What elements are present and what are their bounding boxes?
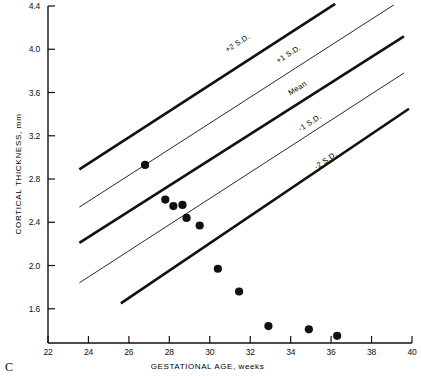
y-tick-label: 3.6 — [8, 88, 40, 98]
data-point — [196, 221, 204, 229]
data-point — [178, 201, 186, 209]
data-point — [264, 322, 272, 330]
axis-lines — [48, 6, 412, 343]
reference-line-2sd — [121, 109, 409, 304]
data-point — [141, 161, 149, 169]
x-axis-title: GESTATIONAL AGE, weeks — [0, 362, 415, 371]
data-point — [182, 214, 190, 222]
data-point — [333, 332, 341, 340]
x-tick-label: 26 — [115, 347, 143, 357]
x-tick-label: 24 — [74, 347, 102, 357]
x-tick-label: 38 — [358, 347, 386, 357]
data-point — [161, 195, 169, 203]
x-tick-label: 22 — [34, 347, 62, 357]
x-tick-marks — [48, 336, 412, 343]
reference-lines — [79, 4, 409, 304]
y-tick-label: 1.6 — [8, 304, 40, 314]
data-point — [169, 202, 177, 210]
y-tick-label: 4.0 — [8, 44, 40, 54]
x-tick-label: 30 — [196, 347, 224, 357]
x-tick-label: 36 — [317, 347, 345, 357]
x-tick-label: 40 — [398, 347, 421, 357]
reference-line-mean — [79, 36, 404, 243]
y-axis-title: CORTICAL THICKNESS, mm — [14, 115, 23, 235]
data-point — [235, 287, 243, 295]
reference-line-1sd — [79, 73, 404, 283]
y-tick-marks — [48, 6, 55, 309]
data-point-markers — [141, 161, 341, 340]
data-point — [305, 325, 313, 333]
data-point — [214, 265, 222, 273]
y-tick-label: 4.4 — [8, 1, 40, 11]
x-tick-label: 34 — [277, 347, 305, 357]
y-tick-label: 2.0 — [8, 261, 40, 271]
x-tick-label: 28 — [155, 347, 183, 357]
panel-label: C — [5, 360, 13, 375]
x-tick-label: 32 — [236, 347, 264, 357]
reference-line-1sd — [79, 5, 393, 207]
